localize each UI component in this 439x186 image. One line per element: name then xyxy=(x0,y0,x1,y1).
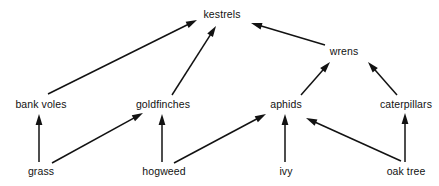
arrow-hogweed-to-aphids xyxy=(174,114,266,163)
arrow-shaft xyxy=(172,34,211,95)
node-label-ivy: ivy xyxy=(279,165,292,177)
arrow-grass-to-goldfinches xyxy=(52,113,143,163)
arrow-goldfinches-to-kestrels xyxy=(172,26,216,95)
arrow-oak_tree-to-aphids xyxy=(306,118,401,161)
arrow-head xyxy=(251,23,263,30)
node-label-wrens: wrens xyxy=(330,45,359,57)
arrow-shaft xyxy=(301,69,324,95)
arrow-grass-to-bank_voles xyxy=(36,114,43,162)
arrow-ivy-to-aphids xyxy=(282,114,289,162)
arrow-head xyxy=(255,114,266,122)
food-web-diagram: kestrelswrensbank volesgoldfinchesaphids… xyxy=(0,0,439,186)
arrow-head xyxy=(306,118,317,126)
arrow-layer xyxy=(0,0,439,186)
arrow-head xyxy=(282,114,289,125)
node-label-aphids: aphids xyxy=(270,98,302,110)
node-label-caterpillars: caterpillars xyxy=(380,98,432,110)
arrow-head xyxy=(207,26,216,37)
arrow-head xyxy=(36,114,43,125)
arrow-shaft xyxy=(174,118,258,163)
arrow-wrens-to-kestrels xyxy=(251,23,325,45)
arrow-shaft xyxy=(314,122,401,161)
node-label-goldfinches: goldfinches xyxy=(136,98,190,110)
arrow-head xyxy=(186,20,197,28)
node-label-oak-tree: oak tree xyxy=(387,165,426,177)
node-label-grass: grass xyxy=(28,165,54,177)
node-label-kestrels: kestrels xyxy=(204,8,241,20)
arrow-head xyxy=(402,113,409,124)
arrow-shaft xyxy=(374,69,397,95)
arrow-oak_tree-to-caterpillars xyxy=(402,113,409,162)
arrow-hogweed-to-goldfinches xyxy=(159,114,166,162)
arrow-shaft xyxy=(52,117,135,163)
node-label-bank-voles: bank voles xyxy=(15,98,66,110)
arrow-aphids-to-wrens xyxy=(301,62,330,95)
node-label-hogweed: hogweed xyxy=(142,165,185,177)
arrow-bank_voles-to-kestrels xyxy=(48,20,197,94)
arrow-shaft xyxy=(260,26,325,45)
arrow-head xyxy=(159,114,166,125)
arrow-caterpillars-to-wrens xyxy=(368,62,397,95)
arrow-shaft xyxy=(48,24,189,94)
arrow-head xyxy=(132,113,143,121)
